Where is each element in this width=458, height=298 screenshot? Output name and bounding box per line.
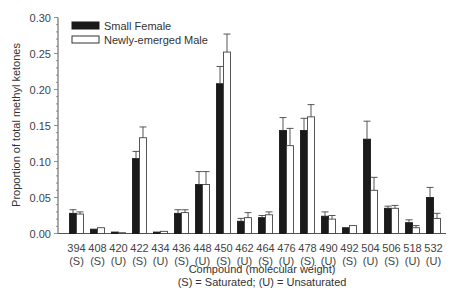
legend-label-small-female: Small Female [104, 20, 171, 32]
bar-small-female [196, 185, 203, 234]
y-tick-label: 0.30 [30, 12, 51, 24]
y-axis-title: Proportion of total methyl ketones [10, 43, 22, 207]
bar-small-female [154, 232, 161, 233]
x-tick-label: 434 [151, 242, 169, 254]
bar-newly-emerged-male [392, 208, 399, 233]
bar-newly-emerged-male [161, 231, 168, 233]
x-tick-type: (U) [363, 255, 378, 267]
bar-small-female [91, 229, 98, 233]
bar-small-female [343, 228, 350, 234]
x-axis-note: (S) = Saturated; (U) = Unsaturated [178, 276, 347, 288]
bar-newly-emerged-male [98, 228, 105, 234]
bar-newly-emerged-male [287, 146, 294, 234]
bar-newly-emerged-male [266, 215, 273, 234]
y-tick-label: 0.10 [30, 156, 51, 168]
x-tick-label: 450 [214, 242, 232, 254]
y-tick-label: 0.00 [30, 228, 51, 240]
bar-small-female [259, 218, 266, 234]
bar-small-female [280, 131, 287, 234]
legend-swatch-newly-emerged-male [72, 36, 99, 43]
x-tick-label: 506 [382, 242, 400, 254]
bar-small-female [364, 139, 371, 233]
bar-small-female [406, 223, 413, 234]
bar-small-female [427, 198, 434, 234]
bar-small-female [70, 213, 77, 233]
bar-small-female [175, 213, 182, 233]
bar-chart: 0.000.050.100.150.200.250.30 394(S)408(S… [0, 0, 458, 298]
bar-newly-emerged-male [350, 226, 357, 234]
bar-newly-emerged-male [413, 228, 420, 234]
x-tick-label: 504 [361, 242, 379, 254]
x-tick-label: 464 [256, 242, 274, 254]
x-tick-type: (S) [90, 255, 105, 267]
x-tick-label: 518 [403, 242, 421, 254]
x-axis: 394(S)408(S)420(U)422(S)434(U)436(S)448(… [58, 234, 446, 268]
bar-newly-emerged-male [329, 219, 336, 233]
x-tick-label: 490 [319, 242, 337, 254]
y-tick-label: 0.15 [30, 120, 51, 132]
bar-newly-emerged-male [308, 117, 315, 234]
y-tick-label: 0.20 [30, 84, 51, 96]
bar-newly-emerged-male [203, 185, 210, 234]
x-tick-label: 478 [298, 242, 316, 254]
bar-newly-emerged-male [245, 218, 252, 234]
legend-label-newly-emerged-male: Newly-emerged Male [104, 34, 208, 46]
x-tick-type: (S) [69, 255, 84, 267]
bar-small-female [238, 221, 245, 233]
x-tick-label: 476 [277, 242, 295, 254]
legend: Small Female Newly-emerged Male [72, 20, 208, 46]
x-tick-label: 532 [424, 242, 442, 254]
x-tick-type: (S) [342, 255, 357, 267]
x-tick-type: (S) [132, 255, 147, 267]
x-tick-type: (U) [405, 255, 420, 267]
x-tick-type: (U) [153, 255, 168, 267]
x-tick-label: 462 [235, 242, 253, 254]
x-tick-label: 394 [67, 242, 85, 254]
bars [70, 34, 441, 233]
x-tick-type: (S) [384, 255, 399, 267]
bar-newly-emerged-male [140, 138, 147, 234]
bar-newly-emerged-male [182, 213, 189, 234]
bar-newly-emerged-male [434, 218, 441, 233]
x-tick-type: (S) [174, 255, 189, 267]
bar-small-female [217, 84, 224, 234]
bar-small-female [112, 232, 119, 233]
x-tick-label: 436 [172, 242, 190, 254]
bar-newly-emerged-male [371, 190, 378, 233]
bar-small-female [385, 208, 392, 233]
y-tick-label: 0.05 [30, 192, 51, 204]
x-axis-title: Compound (molecular weight) [189, 263, 336, 275]
y-axis: 0.000.050.100.150.200.250.30 [30, 12, 58, 240]
x-tick-label: 422 [130, 242, 148, 254]
x-tick-label: 408 [88, 242, 106, 254]
x-tick-label: 448 [193, 242, 211, 254]
bar-newly-emerged-male [77, 214, 84, 233]
x-tick-label: 420 [109, 242, 127, 254]
legend-swatch-small-female [72, 22, 99, 29]
bar-newly-emerged-male [224, 52, 231, 233]
bar-small-female [322, 216, 329, 233]
y-tick-label: 0.25 [30, 48, 51, 60]
x-tick-label: 492 [340, 242, 358, 254]
bar-newly-emerged-male [119, 233, 126, 234]
bar-small-female [301, 131, 308, 234]
x-tick-type: (U) [111, 255, 126, 267]
bar-small-female [133, 159, 140, 234]
x-tick-type: (U) [426, 255, 441, 267]
